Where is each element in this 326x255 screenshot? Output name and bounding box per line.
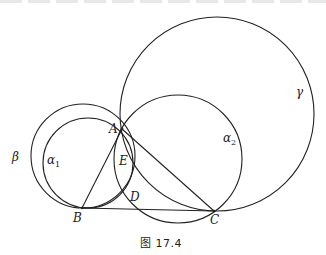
- label-circle-alpha2: α2: [223, 132, 236, 147]
- label-point-c: C: [210, 214, 219, 226]
- label-circle-alpha1: α1: [47, 154, 60, 169]
- label-point-d: D: [130, 191, 140, 203]
- geometry-figure: A B C D E γ β α1 α2 图 17.4: [0, 0, 326, 255]
- alpha2-symbol: α: [223, 131, 231, 145]
- label-point-e: E: [119, 155, 128, 167]
- alpha1-subscript: 1: [55, 160, 60, 169]
- label-point-b: B: [73, 212, 82, 224]
- point-a-dot: [121, 128, 124, 131]
- circle-gamma: [120, 17, 314, 211]
- point-b-dot: [81, 207, 83, 209]
- diagram-canvas: [0, 0, 326, 255]
- point-c-dot: [213, 210, 215, 212]
- alpha1-symbol: α: [47, 153, 55, 167]
- figure-caption: 图 17.4: [140, 234, 182, 250]
- label-circle-gamma: γ: [296, 86, 303, 98]
- alpha2-subscript: 2: [231, 138, 236, 147]
- label-circle-beta: β: [12, 151, 19, 163]
- label-point-a: A: [109, 123, 118, 135]
